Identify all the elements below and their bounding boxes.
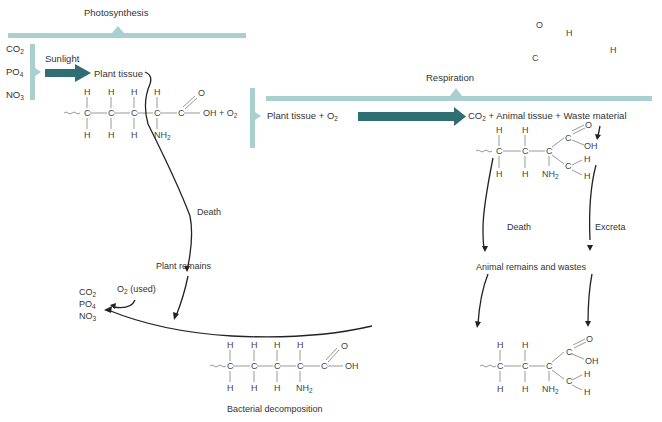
output-po4: PO4 bbox=[79, 300, 96, 311]
plant-tissue-label: Plant tissue bbox=[94, 69, 143, 79]
bacterial-decomposition-caption: Bacterial decomposition bbox=[227, 405, 323, 414]
respiration-reactants: Plant tissue + O2 bbox=[267, 111, 338, 123]
excreta-label: Excreta bbox=[595, 223, 626, 232]
animal-remains-label: Animal remains and wastes bbox=[476, 263, 586, 272]
output-no3: NO3 bbox=[79, 312, 96, 323]
respiration-bracket bbox=[266, 88, 652, 101]
input-co2: CO2 bbox=[6, 44, 24, 56]
inputs-brace bbox=[30, 44, 41, 100]
plant-remains-label: Plant remains bbox=[156, 262, 211, 271]
output-co2: CO2 bbox=[79, 288, 96, 299]
floating-atom-h: H bbox=[566, 29, 573, 38]
diagram-graphics bbox=[0, 0, 662, 422]
photosynthesis-title: Photosynthesis bbox=[84, 8, 148, 18]
sunlight-label: Sunlight bbox=[45, 54, 79, 64]
sunlight-arrow bbox=[45, 64, 91, 82]
input-no3: NO3 bbox=[6, 90, 24, 102]
floating-atom-c: C bbox=[532, 54, 539, 63]
input-po4: PO4 bbox=[6, 67, 23, 79]
floating-atom-h2: H bbox=[610, 46, 617, 55]
o2-used-label: O2 (used) bbox=[117, 285, 156, 296]
floating-atom-o: O bbox=[536, 21, 543, 30]
respiration-products: CO2 + Animal tissue + Waste material bbox=[468, 111, 627, 123]
respiration-title: Respiration bbox=[426, 73, 474, 83]
respiration-brace bbox=[250, 88, 261, 148]
plant-death-label: Death bbox=[197, 208, 221, 217]
respiration-arrow bbox=[358, 107, 466, 126]
animal-death-label: Death bbox=[507, 223, 531, 232]
photosynthesis-bracket bbox=[8, 26, 246, 38]
